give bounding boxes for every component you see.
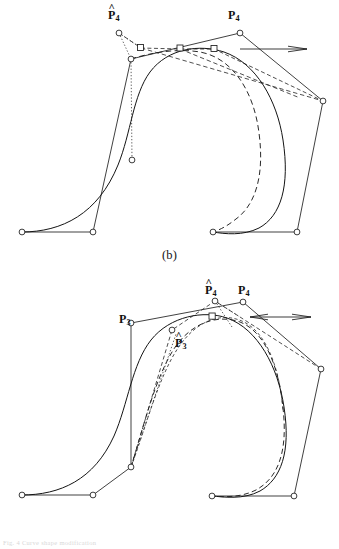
control-point-square: [177, 45, 183, 51]
control-point-circle: [128, 56, 134, 62]
control-point-circle: [237, 30, 243, 36]
control-point-circle: [128, 464, 134, 470]
construction-lines-c: [131, 301, 240, 467]
control-point-circle: [291, 493, 297, 499]
control-point-circle: [129, 157, 135, 163]
original-curve-b: [22, 48, 285, 234]
figure-panel-b: ^P4 P4 (b): [0, 0, 339, 272]
control-point-circle: [320, 98, 326, 104]
tangent-arrow-c: [250, 314, 311, 320]
page-footer-text: Fig. 4 Curve shape modification: [3, 539, 96, 546]
original-control-polygon-b: [22, 33, 323, 232]
control-point-circle: [90, 229, 96, 235]
control-point-circle: [116, 30, 122, 36]
hat-accent-icon: ^: [175, 330, 181, 341]
knot-markers-c: [209, 313, 215, 319]
modified-curve-b: [131, 51, 261, 232]
control-point-circle: [212, 298, 218, 304]
control-point-circle: [90, 492, 96, 498]
control-point-circle: [240, 299, 246, 305]
tangent-arrow-b: [240, 46, 307, 52]
p4-label-c: P4: [238, 284, 249, 296]
control-point-circle: [169, 327, 175, 333]
p4-hat-label-b: ^P4: [108, 9, 119, 21]
control-point-circle: [209, 493, 215, 499]
control-point-circle: [19, 492, 25, 498]
panel-b-caption: (b): [0, 248, 339, 263]
p3-hat-label-c: ^P3: [175, 337, 186, 349]
panel-b-drawing: [0, 0, 339, 272]
control-point-circle: [294, 229, 300, 235]
hat-accent-icon: ^: [108, 2, 114, 13]
p4-hat-label-c: ^P4: [205, 284, 216, 296]
control-point-square: [211, 46, 217, 52]
hat-accent-icon: ^: [205, 277, 211, 288]
control-point-circle: [210, 229, 216, 235]
modified-control-polygon-b: [119, 33, 323, 101]
control-point-markers-c: [19, 298, 324, 499]
figure-page: ^P4 P4 (b): [0, 0, 339, 549]
modified-control-polygon-c: [131, 301, 321, 467]
figure-panel-c: ^P4 P4 P3 ^P3 (c): [0, 272, 339, 530]
original-curve-c: [22, 315, 286, 498]
control-point-circle: [318, 366, 324, 372]
panel-c-drawing: [0, 272, 339, 530]
p4-label-b: P4: [228, 9, 239, 21]
control-point-square: [209, 313, 215, 319]
control-point-square: [138, 45, 144, 51]
control-point-circle: [19, 229, 25, 235]
p3-label-c: P3: [119, 313, 130, 325]
